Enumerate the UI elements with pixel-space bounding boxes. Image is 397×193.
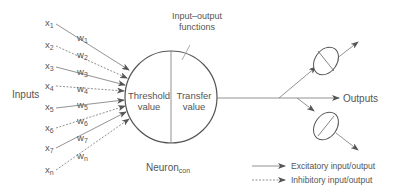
threshold-value-label: Threshold value (127, 90, 171, 112)
weight-label-n: wn (77, 151, 88, 162)
input-connections (56, 24, 129, 170)
neuron-label: Neuroncon (146, 163, 190, 174)
input-line-n (56, 119, 129, 170)
input-x-label-6: x6 (45, 123, 54, 134)
input-line-7 (56, 112, 126, 148)
input-x-label-3: x3 (45, 61, 54, 72)
output-synapse-upper (308, 42, 343, 79)
weight-label-7: w7 (77, 133, 88, 144)
input-line-6 (56, 106, 125, 128)
transfer-value-label: Transfer value (172, 90, 216, 112)
weight-label-3: w3 (77, 67, 88, 78)
input-x-label-4: x4 (45, 81, 54, 92)
input-x-label-1: x1 (45, 18, 54, 29)
input-x-label-5: x5 (45, 102, 54, 113)
input-x-label-7: x7 (45, 143, 54, 154)
inputs-label: Inputs (12, 90, 39, 100)
input-x-label-n: xn (45, 165, 54, 176)
io-functions-label: Input–output functions (167, 11, 227, 33)
output-synapse-lower (308, 107, 343, 144)
input-line-5 (56, 100, 124, 108)
weight-label-4: w4 (77, 84, 88, 95)
input-line-3 (56, 67, 125, 85)
input-x-label-2: x2 (45, 40, 54, 51)
weight-label-5: w5 (77, 100, 88, 111)
weight-label-6: w6 (77, 116, 88, 127)
legend-excitatory-label: Excitatory input/output (291, 162, 375, 171)
weight-label-2: w2 (77, 50, 88, 61)
outputs-label: Outputs (343, 94, 378, 104)
input-line-1 (56, 24, 129, 70)
input-line-4 (56, 86, 124, 91)
weight-label-1: w1 (77, 33, 88, 44)
legend-inhibitory-label: Inhibitory input/output (291, 176, 372, 185)
